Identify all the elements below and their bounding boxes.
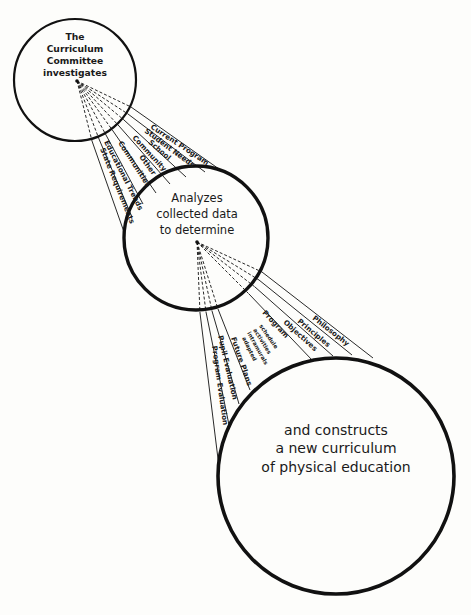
stage-1-line-4: investigates bbox=[43, 67, 107, 78]
determination-labels: Philosophy Principles Objectives Program… bbox=[210, 308, 352, 425]
stage-analyze-text: Analyzes collected data to determine bbox=[156, 191, 238, 237]
focal-point-1 bbox=[75, 79, 79, 83]
stage-1-line-1: The bbox=[65, 31, 84, 42]
stage-3-line-1: and constructs bbox=[284, 422, 388, 438]
focal-point-2 bbox=[195, 240, 199, 244]
stage-construct-text: and constructs a new curriculum of physi… bbox=[261, 422, 410, 475]
stage-2-line-1: Analyzes bbox=[171, 191, 222, 205]
stage-investigate-text: The Curriculum Committee investigates bbox=[43, 31, 107, 78]
stage-1-line-2: Curriculum bbox=[47, 43, 104, 54]
stage-2-line-2: collected data bbox=[156, 207, 238, 221]
stage-3-line-2: a new curriculum bbox=[275, 440, 396, 456]
curriculum-process-diagram: The Curriculum Committee investigates An… bbox=[0, 0, 471, 615]
stage-1-line-3: Committee bbox=[47, 55, 104, 66]
stage-3-line-3: of physical education bbox=[261, 459, 410, 475]
stage-2-line-3: to determine bbox=[160, 223, 234, 237]
stage-construct-circle bbox=[218, 358, 454, 594]
